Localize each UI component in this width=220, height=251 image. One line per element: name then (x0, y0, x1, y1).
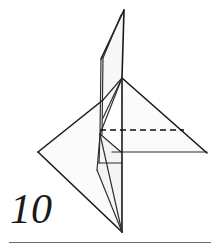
page-divider-rule (9, 242, 211, 243)
step-number-label: 10 (10, 186, 52, 232)
figure-page: 10 (0, 0, 220, 251)
